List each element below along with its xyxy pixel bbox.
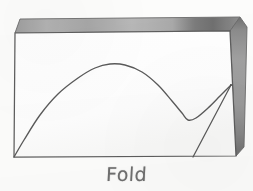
fold-diagram-figure: Fold: [0, 0, 253, 191]
fold-point-marker: [230, 84, 232, 86]
fold-diagram-canvas: [0, 0, 253, 191]
